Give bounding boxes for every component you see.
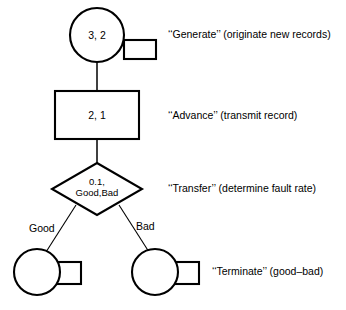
- generate-value: 3, 2: [88, 29, 106, 41]
- flowchart-diagram: 3, 2 ‘‘Generate’’ (originate new records…: [0, 0, 346, 310]
- node-transfer[interactable]: 0.1, Good,Bad: [52, 163, 142, 215]
- node-generate[interactable]: 3, 2: [70, 8, 156, 62]
- branch-label-bad: Bad: [136, 220, 155, 232]
- generate-tab: [124, 40, 156, 59]
- terminate-good-circle: [14, 249, 60, 295]
- terminate-bad-circle: [132, 249, 178, 295]
- terminate-label: ‘‘Terminate’’ (good–bad): [212, 265, 323, 277]
- advance-value: 2, 1: [88, 109, 106, 121]
- diagram-canvas: 3, 2 ‘‘Generate’’ (originate new records…: [0, 0, 346, 310]
- advance-label: ‘‘Advance’’ (transmit record): [168, 109, 297, 121]
- branch-label-good: Good: [29, 222, 55, 234]
- generate-label: ‘‘Generate’’ (originate new records): [168, 28, 331, 40]
- node-terminate-good[interactable]: [14, 249, 81, 295]
- node-terminate-bad[interactable]: [132, 249, 199, 295]
- transfer-label: ‘‘Transfer’’ (determine fault rate): [168, 182, 316, 194]
- transfer-value-line2: Good,Bad: [76, 187, 119, 198]
- transfer-value-line1: 0.1,: [89, 176, 105, 187]
- node-advance[interactable]: 2, 1: [55, 91, 139, 139]
